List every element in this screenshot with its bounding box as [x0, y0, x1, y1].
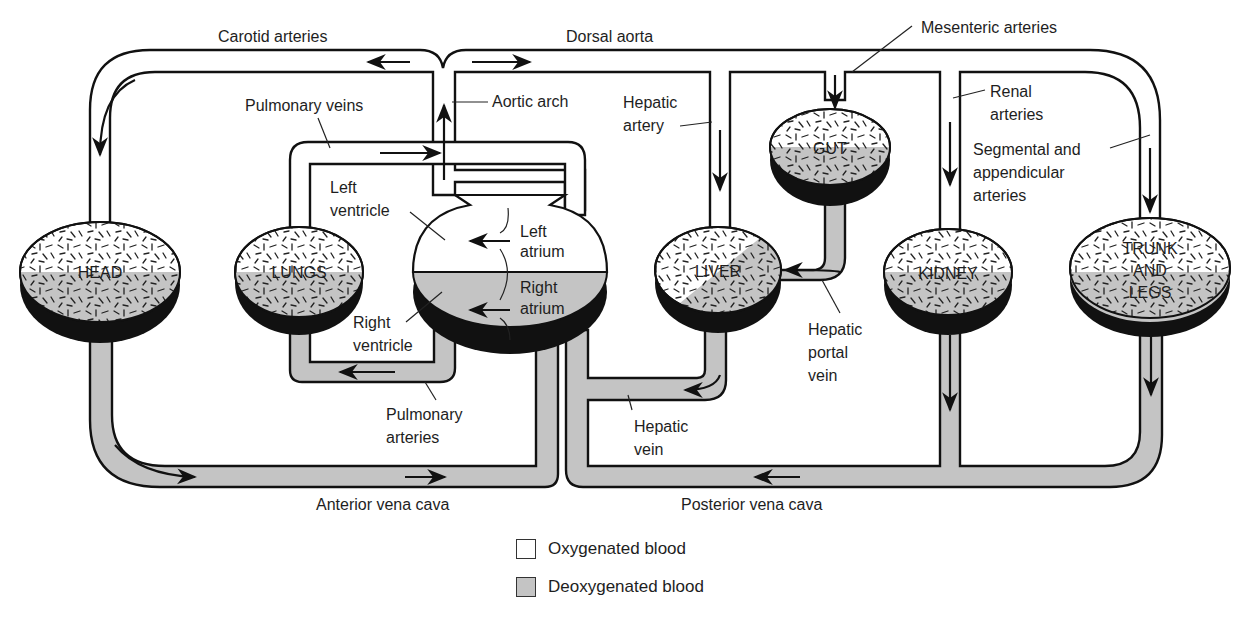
right-atrium-label-1: Right [520, 279, 558, 296]
organ-label-liver: LIVER [695, 263, 741, 280]
legend-item-deoxygenated: Deoxygenated blood [516, 574, 704, 600]
organ-kidney: KIDNEY [884, 229, 1012, 335]
label-right-ventricle-2: ventricle [353, 337, 413, 354]
legend-label-oxygenated: Oxygenated blood [548, 539, 686, 559]
left-atrium-label-2: atrium [520, 243, 564, 260]
right-atrium-label-2: atrium [520, 300, 564, 317]
organ-lungs: LUNGS [235, 227, 363, 335]
label-left-ventricle-2: ventricle [330, 202, 390, 219]
label-segmental-2: appendicular [973, 164, 1065, 181]
label-renal-arteries-1: Renal [990, 83, 1032, 100]
organ-label-gut: GUT [813, 140, 847, 157]
legend-item-oxygenated: Oxygenated blood [516, 536, 704, 562]
label-segmental-3: arteries [973, 187, 1026, 204]
organ-trunk-and-legs: TRUNK AND LEGS [1070, 218, 1230, 337]
label-hepatic-portal-3: vein [808, 367, 837, 384]
label-hepatic-artery-2: artery [623, 117, 664, 134]
organ-label-trunk: TRUNK [1122, 240, 1177, 257]
label-hepatic-portal-2: portal [808, 344, 848, 361]
label-aortic-arch: Aortic arch [492, 93, 568, 110]
label-hepatic-vein-2: vein [634, 441, 663, 458]
left-atrium-label-1: Left [520, 223, 547, 240]
venous-vessels [90, 190, 1162, 487]
legend: Oxygenated blood Deoxygenated blood [516, 536, 704, 612]
posterior-vena-cava [566, 305, 1162, 487]
label-renal-arteries-2: arteries [990, 106, 1043, 123]
label-posterior-vena-cava: Posterior vena cava [681, 496, 823, 513]
organ-gut: GUT [770, 109, 890, 206]
label-pulmonary-arteries-2: arteries [386, 429, 439, 446]
legend-label-deoxygenated: Deoxygenated blood [548, 577, 704, 597]
label-right-ventricle-1: Right [353, 314, 391, 331]
organ-label-head: HEAD [78, 264, 122, 281]
label-dorsal-aorta: Dorsal aorta [566, 28, 653, 45]
label-left-ventricle-1: Left [330, 179, 357, 196]
organ-head: HEAD [20, 222, 180, 343]
heart: Left atrium Right atrium [413, 195, 607, 354]
label-segmental-1: Segmental and [973, 141, 1081, 158]
organ-label-lungs: LUNGS [271, 264, 326, 281]
label-carotid-arteries: Carotid arteries [218, 28, 327, 45]
label-hepatic-vein-1: Hepatic [634, 418, 688, 435]
label-hepatic-portal-1: Hepatic [808, 321, 862, 338]
organ-label-legs: LEGS [1129, 284, 1172, 301]
legend-swatch-deoxygenated [516, 577, 536, 597]
organ-label-and: AND [1133, 262, 1167, 279]
label-mesenteric-arteries: Mesenteric arteries [921, 19, 1057, 36]
label-hepatic-artery-1: Hepatic [623, 94, 677, 111]
label-pulmonary-veins: Pulmonary veins [245, 97, 363, 114]
organ-label-kidney: KIDNEY [918, 265, 978, 282]
organ-liver: LIVER [655, 227, 781, 333]
label-pulmonary-arteries-1: Pulmonary [386, 406, 462, 423]
legend-swatch-oxygenated [516, 539, 536, 559]
label-anterior-vena-cava: Anterior vena cava [316, 496, 450, 513]
